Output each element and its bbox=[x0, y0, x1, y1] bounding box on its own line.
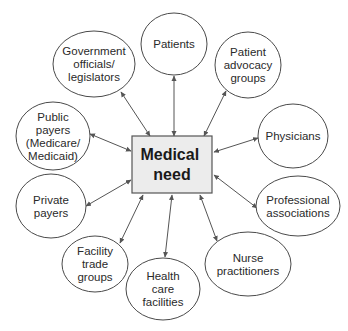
double-arrow-facility-trade-groups bbox=[120, 195, 143, 243]
label-line: Government bbox=[62, 45, 126, 57]
label-line: groups bbox=[77, 271, 112, 283]
double-arrow-nurse-practitioners bbox=[200, 195, 217, 241]
label-line: Patients bbox=[153, 38, 195, 50]
label-line: Patient bbox=[230, 46, 267, 58]
node-facility-trade-groups: Facilitytradegroups bbox=[62, 236, 128, 292]
label-line: Nurse bbox=[233, 252, 264, 264]
center-label-line-1: Medical bbox=[140, 146, 199, 163]
center-node-medical-need: Medical need bbox=[132, 136, 212, 193]
double-arrow-public-payers bbox=[90, 134, 131, 151]
node-patient-advocacy-groups: Patientadvocacygroups bbox=[215, 32, 281, 98]
label-line: care bbox=[152, 283, 174, 295]
label-private-payers: Privatepayers bbox=[33, 194, 69, 219]
node-government-officials-legislators: Governmentofficials/legislators bbox=[53, 31, 135, 97]
double-arrow-health-care-facilities bbox=[165, 195, 172, 257]
label-line: payers bbox=[36, 124, 71, 136]
node-professional-associations: Professionalassociations bbox=[256, 176, 340, 236]
label-line: associations bbox=[266, 207, 330, 219]
label-line: Professional bbox=[266, 194, 329, 206]
stakeholder-diagram: PatientsPatientadvocacygroupsPhysiciansP… bbox=[0, 0, 348, 331]
node-private-payers: Privatepayers bbox=[16, 174, 86, 238]
center-box bbox=[132, 136, 212, 193]
label-line: (Medicare/ bbox=[26, 137, 81, 149]
label-line: Physicians bbox=[266, 130, 321, 142]
label-line: Private bbox=[33, 194, 69, 206]
double-arrow-physicians bbox=[214, 138, 258, 152]
node-patients: Patients bbox=[141, 13, 207, 75]
label-patients: Patients bbox=[153, 38, 195, 50]
label-line: facilities bbox=[143, 296, 184, 308]
center-label-line-2: need bbox=[153, 166, 190, 183]
label-line: practitioners bbox=[217, 265, 280, 277]
node-public-payers: Publicpayers(Medicare/Medicaid) bbox=[16, 102, 90, 170]
label-line: advocacy bbox=[224, 59, 273, 71]
double-arrow-government-officials-legislators bbox=[121, 92, 150, 136]
label-line: officials/ bbox=[73, 58, 115, 70]
label-line: Public bbox=[37, 111, 69, 123]
label-line: Facility bbox=[77, 245, 113, 257]
label-line: legislators bbox=[68, 71, 120, 83]
label-line: payers bbox=[34, 207, 69, 219]
label-line: trade bbox=[82, 258, 108, 270]
label-physicians: Physicians bbox=[266, 130, 321, 142]
diagram-svg: PatientsPatientadvocacygroupsPhysiciansP… bbox=[0, 0, 348, 331]
label-line: Medicaid) bbox=[28, 150, 78, 162]
node-health-care-facilities: Healthcarefacilities bbox=[126, 258, 200, 320]
double-arrow-patient-advocacy-groups bbox=[204, 91, 226, 136]
label-professional-associations: Professionalassociations bbox=[266, 194, 330, 219]
double-arrow-private-payers bbox=[86, 180, 131, 206]
label-line: Health bbox=[146, 270, 179, 282]
double-arrow-professional-associations bbox=[214, 175, 257, 208]
label-line: groups bbox=[230, 72, 265, 84]
label-facility-trade-groups: Facilitytradegroups bbox=[77, 245, 113, 283]
node-physicians: Physicians bbox=[258, 104, 328, 168]
node-nurse-practitioners: Nursepractitioners bbox=[205, 232, 291, 296]
label-patient-advocacy-groups: Patientadvocacygroups bbox=[224, 46, 273, 84]
